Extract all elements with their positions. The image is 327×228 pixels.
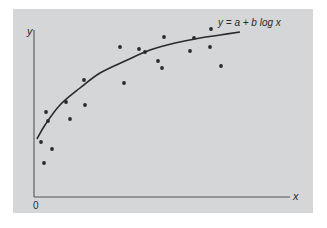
origin-label: 0 <box>33 200 39 211</box>
data-point <box>50 147 54 151</box>
data-point <box>192 36 196 40</box>
data-point <box>188 49 192 53</box>
data-point <box>219 64 223 68</box>
data-points <box>39 27 223 165</box>
fit-equation-label: y = a + b log x <box>217 17 282 28</box>
data-point <box>46 119 50 123</box>
data-point <box>44 110 48 114</box>
data-point <box>68 117 72 121</box>
data-point <box>83 103 87 107</box>
data-point <box>118 45 122 49</box>
data-point <box>82 78 86 82</box>
data-point <box>64 100 68 104</box>
data-point <box>208 45 212 49</box>
scatter-chart: y x 0 y = a + b log x <box>0 0 327 228</box>
data-point <box>137 47 141 51</box>
data-point <box>42 161 46 165</box>
data-point <box>39 140 43 144</box>
data-point <box>156 59 160 63</box>
data-point <box>122 81 126 85</box>
data-point <box>143 50 147 54</box>
data-point <box>160 66 164 70</box>
axes <box>34 30 290 197</box>
y-axis-label: y <box>26 25 34 37</box>
data-point <box>209 27 213 31</box>
data-point <box>162 35 166 39</box>
x-axis-label: x <box>292 190 299 202</box>
